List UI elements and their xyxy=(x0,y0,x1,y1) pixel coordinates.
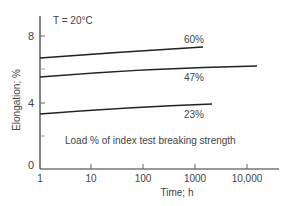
x-tick-label: 1000 xyxy=(184,173,207,184)
x-tick-label: 10,000 xyxy=(232,173,263,184)
chart: 8 4 0 1 10 100 1000 10,000 Time; h Elong… xyxy=(0,0,292,206)
y-axis-label: Elongation; % xyxy=(11,69,22,131)
series-label-60: 60% xyxy=(184,34,204,45)
chart-title: T = 20°C xyxy=(53,15,93,26)
series-label-23: 23% xyxy=(184,109,204,120)
x-tick-label: 1 xyxy=(37,173,43,184)
series-line-60 xyxy=(40,47,203,58)
y-tick-label: 8 xyxy=(28,30,34,42)
x-axis-label: Time; h xyxy=(161,187,194,198)
chart-annotation: Load % of index test breaking strength xyxy=(65,135,236,146)
y-tick-label: 0 xyxy=(28,159,34,171)
series-line-47 xyxy=(40,66,257,77)
x-tick-label: 100 xyxy=(135,173,152,184)
x-tick-label: 10 xyxy=(85,173,97,184)
series-label-47: 47% xyxy=(184,72,204,83)
y-tick-label: 4 xyxy=(28,97,34,109)
